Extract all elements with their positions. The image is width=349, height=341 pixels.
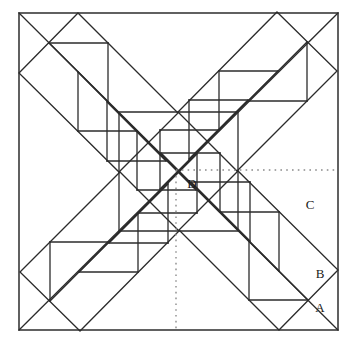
region-label-b: B — [316, 266, 325, 281]
geometric-figure: ABCD — [0, 0, 349, 341]
figure-background — [0, 0, 349, 341]
region-label-d: D — [187, 176, 196, 191]
region-label-c: C — [306, 197, 315, 212]
region-label-a: A — [315, 300, 325, 315]
figure-canvas: ABCD — [0, 0, 349, 341]
